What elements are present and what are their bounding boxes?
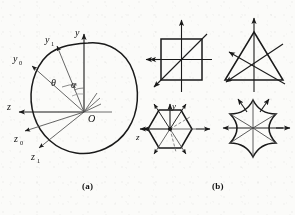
hexagon-axis-d3 bbox=[154, 129, 170, 154]
panel-a bbox=[19, 34, 137, 154]
origin-hatch-rays bbox=[84, 93, 112, 112]
angle-arc-alpha-outer bbox=[72, 94, 84, 96]
svg-text:y: y bbox=[12, 53, 18, 64]
label-origin-O: O bbox=[88, 113, 95, 124]
label-axis-y1: y 1 bbox=[44, 34, 54, 47]
shape-triangle bbox=[225, 18, 285, 92]
svg-text:0: 0 bbox=[20, 139, 23, 146]
svg-text:1: 1 bbox=[37, 157, 40, 164]
star-arrow-up-right bbox=[260, 99, 269, 112]
hexagon-dashed-diagonal-1 bbox=[170, 117, 190, 129]
shape-concave-star bbox=[223, 99, 290, 157]
label-angle-alpha: α bbox=[71, 79, 77, 90]
svg-text:y: y bbox=[44, 34, 50, 45]
svg-text:z: z bbox=[13, 133, 18, 144]
figure-svg: y y 1 y 0 z z 0 z 1 θ α O y bbox=[0, 0, 295, 215]
caption-panel-a: (a) bbox=[82, 181, 93, 191]
star-axis-d4 bbox=[230, 128, 253, 143]
label-hexagon-axis-y: y bbox=[171, 101, 176, 111]
star-axis-d1 bbox=[253, 114, 276, 128]
svg-text:0: 0 bbox=[19, 59, 22, 66]
hexagon-axis-d4 bbox=[170, 129, 186, 154]
star-axis-d3 bbox=[253, 128, 276, 143]
svg-text:z: z bbox=[30, 151, 35, 162]
caption-panel-b: (b) bbox=[212, 181, 224, 191]
hexagon-center-dot bbox=[168, 127, 172, 131]
shape-hexagon bbox=[143, 104, 196, 154]
figure-root: y y 1 y 0 z z 0 z 1 θ α O y bbox=[0, 0, 295, 215]
shape-square bbox=[150, 20, 212, 92]
label-axis-y: y bbox=[74, 27, 80, 38]
label-axis-z: z bbox=[6, 101, 11, 112]
hexagon-axis-d1 bbox=[154, 104, 170, 129]
square-axis-diagonal bbox=[154, 34, 207, 87]
label-axis-z1: z 0 bbox=[13, 133, 23, 146]
label-axis-z0: z 1 bbox=[30, 151, 40, 164]
label-axis-y0: y 0 bbox=[12, 53, 22, 66]
svg-text:1: 1 bbox=[51, 40, 54, 47]
axis-z0 bbox=[39, 112, 84, 148]
label-angle-theta: θ bbox=[51, 77, 56, 88]
label-hexagon-axis-z: z bbox=[135, 132, 140, 142]
star-arrow-up-left bbox=[238, 99, 247, 112]
star-axis-d2 bbox=[230, 114, 253, 128]
